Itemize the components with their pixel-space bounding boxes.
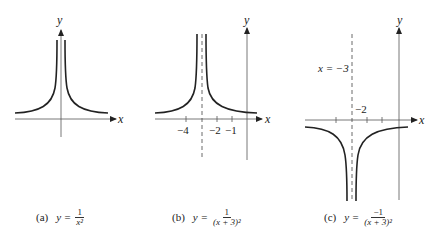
panel-b-left-branch bbox=[155, 34, 197, 113]
panel-a-caption-label: (a) bbox=[36, 212, 48, 223]
panel-a-denominator: x² bbox=[74, 218, 85, 227]
panel-c-y-label: y bbox=[397, 14, 402, 26]
panel-b-denominator: (x + 3)² bbox=[211, 218, 243, 227]
panel-a-right-branch bbox=[65, 40, 108, 113]
panel-c-caption: (c) y = −1 (x + 3)² bbox=[324, 208, 394, 228]
panel-a-equation-lhs: y = bbox=[56, 212, 71, 223]
panel-c-tick-label: −2 bbox=[355, 104, 367, 115]
panel-b-equation-lhs: y = bbox=[193, 212, 208, 223]
panel-c-x-label: x bbox=[419, 114, 424, 126]
panel-c-denominator: (x + 3)² bbox=[362, 218, 394, 227]
panel-b-tick-label: −2 bbox=[209, 125, 221, 136]
panel-a-caption: (a) y = 1 x² bbox=[36, 208, 85, 228]
panel-c-equation-lhs: y = bbox=[344, 212, 359, 223]
panel-c-caption-label: (c) bbox=[324, 212, 336, 223]
panel-a-fraction: 1 x² bbox=[74, 208, 85, 228]
panel-b-tick-label: −4 bbox=[177, 125, 189, 136]
panel-b-y-label: y bbox=[244, 14, 249, 26]
panel-b-tick-label: −1 bbox=[225, 125, 237, 136]
panel-b-fraction: 1 (x + 3)² bbox=[211, 208, 243, 228]
panel-a-graph bbox=[15, 30, 116, 137]
panel-b-graph bbox=[155, 28, 262, 160]
panel-a-y-label: y bbox=[57, 14, 62, 26]
panel-c-asymptote-label: x = −3 bbox=[318, 62, 349, 74]
panel-a-left-branch bbox=[15, 40, 57, 113]
panel-b-caption: (b) y = 1 (x + 3)² bbox=[172, 208, 243, 228]
panel-a-x-label: x bbox=[118, 113, 123, 125]
panel-c-right-branch bbox=[356, 127, 408, 201]
panel-b-x-label: x bbox=[265, 113, 270, 125]
panel-c-left-branch bbox=[305, 127, 347, 201]
figure-canvas bbox=[0, 0, 441, 237]
panel-b-right-branch bbox=[206, 34, 257, 113]
panel-c-fraction: −1 (x + 3)² bbox=[362, 208, 394, 228]
panel-b-caption-label: (b) bbox=[172, 212, 185, 223]
